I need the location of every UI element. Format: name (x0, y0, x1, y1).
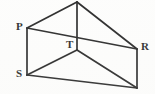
vertex-label-P: P (16, 21, 23, 32)
vertex-label-T: T (66, 39, 73, 50)
figure-canvas (0, 0, 155, 94)
edge-T-S (27, 50, 77, 75)
edge-P-R (27, 28, 137, 49)
geometry-figure: P T R S (0, 0, 155, 94)
figure-edges (27, 2, 137, 88)
vertex-label-S: S (16, 68, 22, 79)
vertex-label-R: R (141, 41, 149, 52)
edge-apex-P (27, 2, 77, 28)
edge-apex-R (77, 2, 137, 49)
